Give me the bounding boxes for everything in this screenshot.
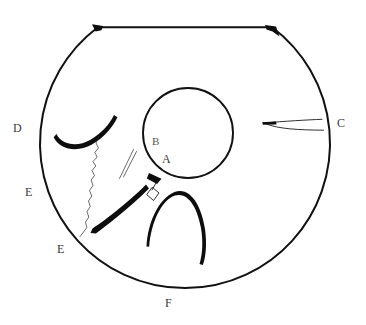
thick-diagonal-stroke xyxy=(91,185,150,234)
chord-end-blob-right-icon xyxy=(265,25,280,37)
label-D: D xyxy=(13,122,22,134)
label-C: C xyxy=(337,117,345,129)
wavy-vertical-line-stroke xyxy=(80,137,99,237)
hook-curve-left-stroke xyxy=(54,115,118,149)
outer-body-outline xyxy=(40,28,330,289)
wedge-sliver-right-joint xyxy=(262,121,277,124)
diamond-tag-diamond xyxy=(147,188,159,201)
label-F: F xyxy=(165,297,172,309)
figure-container: A B C D E E F xyxy=(0,0,366,325)
label-A: A xyxy=(162,153,171,165)
label-E-lower: E xyxy=(57,243,65,255)
parallel-hairlines-stroke-1 xyxy=(120,150,134,179)
wedge-sliver-right-lower xyxy=(267,124,324,130)
label-E-upper: E xyxy=(25,186,33,198)
inverted-u-arc-stroke xyxy=(147,191,207,265)
parallel-hairlines-stroke-2 xyxy=(124,152,137,178)
central-circle-outline xyxy=(143,88,233,178)
diamond-tag-dart xyxy=(147,173,162,184)
label-B: B xyxy=(152,136,160,147)
figure-drawing xyxy=(0,0,366,325)
